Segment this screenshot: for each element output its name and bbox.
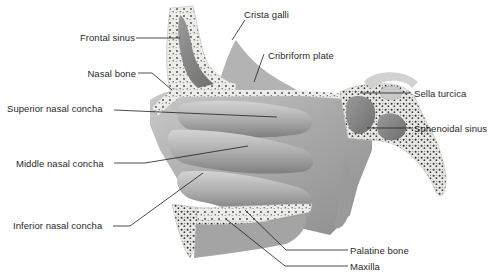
leader-crista-galli: [232, 20, 245, 40]
label-nasal-bone: Nasal bone: [60, 68, 136, 79]
label-sella-turcica: Sella turcica: [414, 88, 466, 99]
label-superior-nasal-concha: Superior nasal concha: [7, 103, 103, 114]
label-maxilla: Maxilla: [350, 261, 380, 272]
label-frontal-sinus: Frontal sinus: [47, 32, 135, 43]
anatomy-figure: Frontal sinus Crista galli Cribriform pl…: [0, 0, 495, 277]
label-cribriform-plate: Cribriform plate: [268, 50, 334, 61]
label-crista-galli: Crista galli: [244, 9, 289, 20]
label-middle-nasal-concha: Middle nasal concha: [16, 158, 104, 169]
label-palatine-bone: Palatine bone: [350, 245, 409, 256]
leader-nasal-bone: [138, 73, 172, 90]
label-inferior-nasal-concha: Inferior nasal concha: [13, 220, 102, 231]
label-sphenoidal-sinus: Sphenoidal sinus: [414, 123, 487, 134]
